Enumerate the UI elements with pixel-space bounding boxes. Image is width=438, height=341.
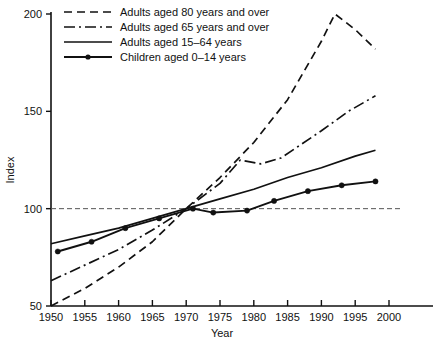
x-tick-label: 1950 [39,311,63,323]
y-tick-label: 200 [24,8,42,20]
data-point-marker [211,210,216,215]
data-point-marker [305,189,310,194]
data-point-marker [89,239,94,244]
x-tick-label: 1990 [309,311,333,323]
legend-label-children-0-14: Children aged 0–14 years [120,51,246,63]
x-tick-label: 1975 [208,311,232,323]
data-point-marker [271,198,276,203]
x-axis-title: Year [211,327,234,339]
chart-canvas: 50100150200 1950195519601965197019751980… [0,0,438,341]
x-tick-label: 1955 [73,311,97,323]
data-point-marker [190,206,195,211]
legend-label-adults-65-plus: Adults aged 65 years and over [120,21,270,33]
x-tick-label: 1985 [275,311,299,323]
data-point-marker [157,216,162,221]
data-point-marker [55,249,60,254]
x-tick-label: 1970 [174,311,198,323]
x-tick-label: 1995 [343,311,367,323]
x-tick-label: 2000 [377,311,401,323]
x-tick-label: 1965 [140,311,164,323]
legend-marker-children-0-14 [85,54,90,59]
y-axis-title: Index [4,156,16,183]
index-trend-line-chart: 50100150200 1950195519601965197019751980… [0,0,438,341]
data-point-marker [373,179,378,184]
data-point-marker [244,208,249,213]
legend-label-adults-15-64: Adults aged 15–64 years [120,36,242,48]
data-point-marker [339,183,344,188]
y-tick-label: 100 [24,203,42,215]
data-point-marker [123,226,128,231]
x-tick-label: 1980 [242,311,266,323]
y-tick-label: 150 [24,105,42,117]
legend-label-adults-80-plus: Adults aged 80 years and over [120,6,270,18]
x-tick-label: 1960 [106,311,130,323]
x-axis-tick-labels: 1950195519601965197019751980198519901995… [39,311,401,323]
